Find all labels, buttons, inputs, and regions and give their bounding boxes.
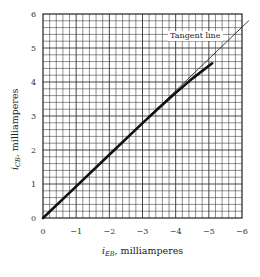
- x-tick-label: −1: [70, 227, 82, 236]
- tangent-line-annotation: Tangent line: [170, 31, 221, 40]
- x-tick-labels: 0−1−2−3−4−5−6: [40, 227, 247, 236]
- y-tick-label: 5: [31, 44, 36, 53]
- series-layer: [43, 21, 249, 218]
- x-tick-label: −3: [137, 227, 149, 236]
- y-axis-label: iCB, milliamperes: [9, 88, 22, 170]
- x-tick-label: −6: [236, 227, 248, 236]
- x-tick-label: −2: [103, 227, 115, 236]
- x-tick-label: −4: [170, 227, 182, 236]
- y-tick-label: 6: [31, 10, 36, 19]
- y-tick-label: 1: [31, 180, 36, 189]
- y-tick-label: 0: [31, 214, 36, 223]
- x-tick-label: 0: [40, 227, 45, 236]
- y-tick-label: 3: [31, 112, 36, 121]
- x-axis-label: iEB, milliamperes: [102, 245, 183, 258]
- characteristic-curve: [43, 63, 212, 218]
- y-tick-label: 4: [31, 78, 36, 87]
- chart: 0−1−2−3−4−5−6 0123456 Tangent line iEB, …: [0, 0, 260, 277]
- tangent-line: [43, 21, 249, 218]
- y-tick-labels: 0123456: [31, 10, 36, 223]
- x-tick-label: −5: [203, 227, 215, 236]
- y-tick-label: 2: [31, 146, 36, 155]
- grid: [43, 14, 242, 218]
